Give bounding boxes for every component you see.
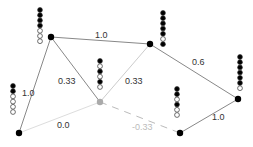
bead-columns-layer (11, 8, 243, 118)
filled-bead-icon (38, 13, 43, 18)
empty-bead-icon (11, 110, 16, 115)
bead-column-a (11, 84, 16, 115)
filled-bead-icon (98, 69, 103, 74)
edge-weight-label: 0.33 (58, 76, 76, 86)
filled-bead-icon (238, 65, 243, 70)
bead-column-b (38, 8, 43, 44)
bead-column-c (98, 59, 103, 90)
filled-bead-icon (11, 89, 16, 94)
filled-bead-icon (238, 60, 243, 65)
filled-bead-icon (175, 92, 180, 97)
empty-bead-icon (175, 107, 180, 112)
edge-weight-label: 0.6 (192, 57, 205, 67)
filled-bead-icon (38, 8, 43, 13)
empty-bead-icon (98, 85, 103, 90)
empty-bead-icon (238, 86, 243, 91)
filled-bead-icon (238, 81, 243, 86)
graph-canvas: 1.00.331.00.330.60.0-0.331.0 (0, 0, 253, 147)
filled-bead-icon (238, 75, 243, 80)
graph-node-f (235, 96, 241, 102)
graph-node-a (16, 130, 22, 136)
edge-weight-label: -0.33 (132, 122, 153, 132)
filled-bead-icon (161, 42, 166, 47)
edge-b-c (51, 37, 100, 102)
edge-labels-layer: 1.00.331.00.330.60.0-0.331.0 (22, 30, 225, 132)
edge-weight-label: 0.0 (57, 120, 70, 130)
filled-bead-icon (11, 84, 16, 89)
bead-column-e (175, 87, 180, 118)
edge-a-b (19, 37, 51, 133)
empty-bead-icon (38, 39, 43, 44)
edge-weight-label: 1.0 (212, 112, 225, 122)
graph-node-e (177, 130, 183, 136)
filled-bead-icon (175, 102, 180, 107)
filled-bead-icon (98, 79, 103, 84)
edge-weight-label: 0.33 (125, 76, 143, 86)
filled-bead-icon (38, 18, 43, 23)
empty-bead-icon (98, 64, 103, 69)
edge-e-f (180, 99, 238, 133)
empty-bead-icon (11, 104, 16, 109)
filled-bead-icon (161, 26, 166, 31)
bead-column-f (238, 55, 243, 91)
bead-column-d (161, 11, 166, 47)
empty-bead-icon (161, 37, 166, 42)
empty-bead-icon (11, 99, 16, 104)
filled-bead-icon (38, 23, 43, 28)
empty-bead-icon (38, 28, 43, 33)
filled-bead-icon (175, 87, 180, 92)
filled-bead-icon (161, 11, 166, 16)
filled-bead-icon (98, 59, 103, 64)
graph-node-d (147, 41, 153, 47)
edge-d-f (150, 44, 238, 99)
filled-bead-icon (238, 70, 243, 75)
filled-bead-icon (161, 31, 166, 36)
filled-bead-icon (161, 16, 166, 21)
empty-bead-icon (98, 74, 103, 79)
edge-c-d (100, 44, 150, 102)
empty-bead-icon (175, 97, 180, 102)
edge-weight-label: 1.0 (95, 30, 108, 40)
filled-bead-icon (238, 55, 243, 60)
edge-weight-label: 1.0 (22, 88, 35, 98)
filled-bead-icon (161, 21, 166, 26)
graph-node-b (48, 34, 54, 40)
graph-node-c (97, 99, 103, 105)
empty-bead-icon (38, 34, 43, 39)
empty-bead-icon (11, 94, 16, 99)
empty-bead-icon (175, 113, 180, 118)
